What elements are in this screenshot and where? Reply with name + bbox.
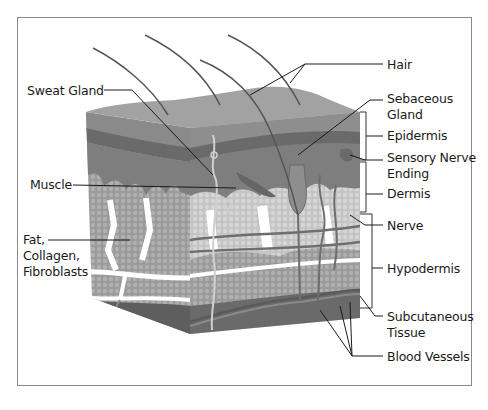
label-hypodermis: Hypodermis bbox=[387, 261, 460, 276]
label-dermis: Dermis bbox=[387, 186, 430, 201]
left-face bbox=[80, 100, 200, 340]
label-epidermis: Epidermis bbox=[387, 128, 447, 143]
right-face bbox=[185, 100, 365, 340]
hair-strand bbox=[145, 35, 220, 105]
label-subcutaneous-line2: Tissue bbox=[387, 325, 425, 340]
label-muscle: Muscle bbox=[30, 177, 72, 192]
label-sebaceous-line2: Gland bbox=[387, 107, 423, 122]
label-sensory-line1: Sensory Nerve bbox=[387, 150, 476, 165]
label-fat-line2: Collagen, bbox=[23, 248, 80, 263]
label-nerve: Nerve bbox=[387, 218, 423, 233]
label-sweat-gland: Sweat Gland bbox=[27, 83, 104, 98]
label-fat-line3: Fibroblasts bbox=[23, 264, 88, 279]
label-fat-line1: Fat, bbox=[23, 232, 45, 247]
label-subcutaneous-line1: Subcutaneous bbox=[387, 309, 473, 324]
label-hair: Hair bbox=[387, 57, 412, 72]
label-blood-vessels: Blood Vessels bbox=[387, 349, 470, 364]
label-sebaceous-line1: Sebaceous bbox=[387, 91, 453, 106]
label-sensory-line2: Ending bbox=[387, 166, 429, 181]
